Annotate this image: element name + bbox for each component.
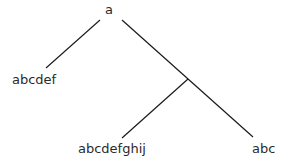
edge-root-left <box>46 20 100 68</box>
tree-diagram: a abcdef abcdefghij abc <box>0 0 290 164</box>
node-left-label: abcdef <box>12 72 57 87</box>
node-root-label: a <box>105 2 113 17</box>
edge-root-right <box>122 20 253 137</box>
node-mid-label: abcdefghij <box>78 141 146 156</box>
node-right-label: abc <box>252 141 275 156</box>
edge-branch-mid <box>122 79 188 138</box>
